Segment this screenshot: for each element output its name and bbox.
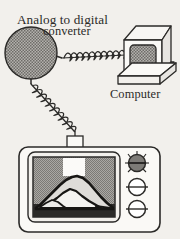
oscilloscope-connector-plug [67,131,83,148]
cable-adc-to-oscilloscope [31,84,76,132]
computer-terminal-group [118,26,176,84]
computer-base-front [118,76,160,84]
screen-marker-block [63,158,85,176]
label-computer: Computer [110,88,160,101]
label-analog-to-digital-line2: converter [43,25,91,38]
cable-adc-to-computer [62,50,127,61]
oscilloscope-screen [33,157,115,217]
oscilloscope-group [19,147,160,232]
illustration-analog-to-digital-converter: Analog to digital converter Computer [0,0,180,239]
